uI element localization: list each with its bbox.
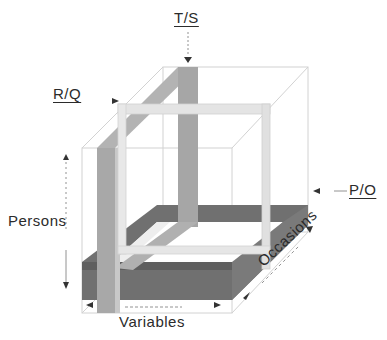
data-cube-diagram <box>0 0 387 340</box>
rq-label: R/Q <box>53 85 81 102</box>
persons-axis-label: Persons <box>8 212 67 229</box>
ts-label: T/S <box>174 9 199 26</box>
po-label: P/O <box>349 181 376 198</box>
variables-axis-label: Variables <box>119 313 185 330</box>
